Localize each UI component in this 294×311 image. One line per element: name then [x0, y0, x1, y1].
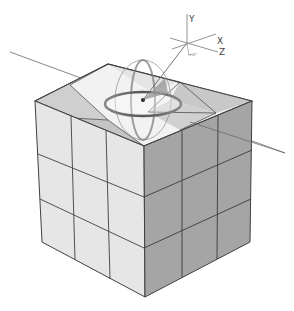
y-axis-label: Y [188, 14, 195, 24]
x-axis-label: X [217, 36, 223, 46]
x-axis-line [172, 34, 216, 49]
axis-indicator: Y X Z +0° [170, 14, 225, 57]
z-axis-line [170, 38, 218, 52]
z-axis-label: Z [219, 47, 225, 57]
angle-label: +0° [189, 52, 197, 57]
3d-viewport[interactable]: Y X Z +0° [0, 0, 294, 311]
